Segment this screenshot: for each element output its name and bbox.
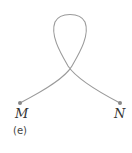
- point-m-dot: [18, 101, 22, 105]
- diagram: M N (e): [0, 0, 132, 153]
- looped-curve: [20, 15, 120, 104]
- point-m-label: M: [14, 106, 29, 121]
- figure-caption: (e): [13, 125, 27, 136]
- point-n-label: N: [113, 106, 126, 121]
- point-n-dot: [118, 101, 122, 105]
